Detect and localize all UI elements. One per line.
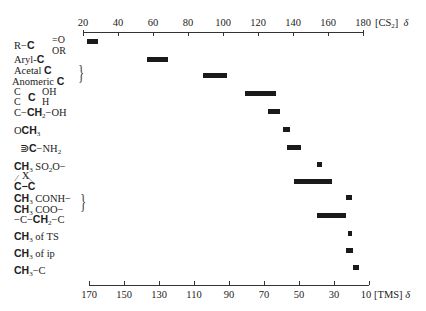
bottom-tick [124,281,125,285]
top-tick-label: 80 [183,17,194,28]
top-tick [223,32,224,36]
brace-acetal-anomeric: } [78,61,84,83]
bottom-tick-label: 130 [151,289,167,300]
label-ch3-ts: CH3 of TS [14,230,59,246]
top-tick-label: 40 [113,17,124,28]
shift-range-bar [245,91,277,96]
label-primary-alcohol: C−CH2−OH [14,106,67,122]
bottom-tick-label: 50 [294,289,305,300]
brace-acetyl: } [80,190,86,212]
shift-range-bar [87,39,98,44]
label-methylene: −C−CH2−C [14,213,64,229]
shift-range-bar [317,162,322,167]
shift-range-bar [287,145,301,150]
bottom-tick [299,281,300,285]
bottom-axis-unit: [TMS] δ [374,289,410,300]
top-tick-label: 20 [78,17,89,28]
bottom-tick [194,281,195,285]
bottom-tick-label: 70 [259,289,270,300]
delta-symbol: δ [404,17,409,28]
top-tick [153,32,154,36]
bottom-tick [159,281,160,285]
label-amine-carbon: ⋑C−NH2 [20,142,61,158]
shift-range-bar [283,127,290,132]
top-tick-label: 160 [320,17,336,28]
top-tick [328,32,329,36]
top-tick-label: 120 [250,17,266,28]
shift-range-bar [348,231,352,236]
shift-range-bar [317,213,347,218]
bottom-tick [229,281,230,285]
shift-range-bar [294,179,333,184]
bottom-tick-label: 90 [224,289,235,300]
top-tick [188,32,189,36]
top-tick [83,30,84,36]
shift-range-bar [346,195,351,200]
bottom-tick [334,281,335,285]
shift-range-bar [346,248,353,253]
label-ch3-c: CH3−C [14,264,46,280]
shift-range-bar [203,73,228,78]
bottom-tick-label: 110 [186,289,201,300]
shift-range-bar [268,109,280,114]
label-ch3-ip: CH3 of ip [14,247,55,263]
top-tick [293,32,294,36]
bottom-tick [369,281,370,285]
top-tick [363,30,364,36]
bottom-tick-label: 10 [361,289,372,300]
top-tick [258,32,259,36]
label-ester-carbonyl: R−C =O OR [14,35,35,55]
bottom-tick [89,281,90,285]
top-tick-label: 140 [285,17,301,28]
delta-symbol: δ [405,289,410,300]
top-tick-label: 60 [148,17,159,28]
bottom-tick [264,281,265,285]
top-tick-label: 180 [355,17,371,28]
shift-range-bar [147,57,168,62]
shift-range-bar [353,265,358,270]
top-axis-unit: [CS2] δ [375,17,408,30]
bottom-tick-label: 30 [329,289,340,300]
top-tick-label: 100 [215,17,231,28]
label-methoxy: OCH3 [14,124,40,140]
bottom-axis-line [89,285,369,286]
top-tick [118,32,119,36]
bottom-tick-label: 150 [116,289,132,300]
bottom-tick-label: 170 [81,289,97,300]
